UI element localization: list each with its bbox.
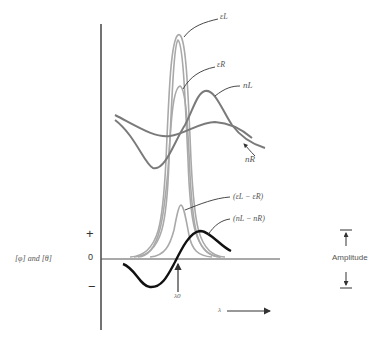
leader-nL: [215, 86, 240, 96]
plus-sign: +: [86, 226, 94, 241]
label-eps-diff: (εL − εR): [233, 192, 263, 201]
leader-n-diff: [208, 219, 230, 235]
y-axis-label: [φ] and [θ]: [15, 254, 52, 263]
amplitude-label: Amplitude: [331, 253, 369, 262]
dispersion-diagram: [0, 0, 379, 340]
leader-epsL: [184, 19, 218, 37]
label-n-diff: (nL − nR): [233, 214, 265, 223]
curve-epsR: [138, 86, 220, 257]
label-lambda0: λ0: [174, 292, 181, 300]
label-nL: nL: [243, 80, 253, 90]
label-epsL: εL: [220, 12, 228, 21]
minus-sign: −: [88, 279, 96, 294]
zero-label: 0: [88, 252, 93, 262]
label-epsR: εR: [217, 60, 225, 69]
label-nR: nR: [245, 154, 255, 164]
label-lambda: λ: [218, 306, 221, 314]
